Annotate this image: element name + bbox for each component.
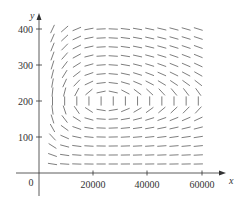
slope-segment xyxy=(134,108,141,112)
slope-segment xyxy=(97,109,105,110)
slope-segment xyxy=(74,107,79,114)
slope-segment xyxy=(109,119,117,120)
x-tick-label-40000: 40000 xyxy=(135,179,160,190)
field-segments xyxy=(48,25,202,164)
slope-segment xyxy=(133,137,141,138)
slope-segment xyxy=(73,127,81,130)
slope-segment xyxy=(51,115,54,123)
slope-segment xyxy=(73,71,80,76)
slope-segment xyxy=(183,81,190,86)
slope-segment xyxy=(158,137,166,138)
slope-segment xyxy=(51,25,55,33)
slope-segment xyxy=(146,28,154,30)
slope-segment xyxy=(195,72,202,76)
slope-segment xyxy=(182,72,189,76)
slope-segment xyxy=(196,89,201,96)
slope-segment xyxy=(159,89,165,95)
slope-segment xyxy=(182,63,190,66)
slope-segment xyxy=(109,82,117,83)
slope-segment xyxy=(60,154,68,155)
y-tick-label-200: 200 xyxy=(18,96,33,107)
slope-segment xyxy=(73,145,81,146)
slope-segment xyxy=(51,70,53,78)
slope-segment xyxy=(73,136,81,138)
slope-segment xyxy=(194,28,202,30)
slope-segment xyxy=(85,37,93,39)
slope-segment xyxy=(51,61,54,69)
slope-segment xyxy=(182,117,190,120)
slope-segment xyxy=(121,46,129,47)
slope-segment xyxy=(73,45,81,49)
slope-segment xyxy=(133,55,141,57)
slope-segment xyxy=(60,164,68,165)
slope-segment xyxy=(73,155,81,156)
slope-segment xyxy=(64,88,66,96)
slope-segment xyxy=(52,79,54,87)
slope-segment xyxy=(61,135,69,138)
x-tick-label-20000: 20000 xyxy=(81,179,106,190)
slope-segment xyxy=(73,63,80,67)
slope-segment xyxy=(51,52,54,60)
slope-segment xyxy=(182,55,190,58)
slope-segment xyxy=(121,128,129,129)
slope-segment xyxy=(85,28,93,30)
slope-segment xyxy=(184,89,189,96)
slope-segment xyxy=(97,83,105,84)
slope-segment xyxy=(146,146,154,147)
slope-segment xyxy=(194,136,202,137)
slope-segment xyxy=(61,26,67,32)
slope-segment xyxy=(52,106,53,114)
slope-segment xyxy=(194,127,202,129)
slope-segment xyxy=(170,63,178,66)
slope-segment xyxy=(61,126,68,131)
y-tick-label-400: 400 xyxy=(18,24,33,35)
slope-segment xyxy=(182,136,190,137)
slope-segment xyxy=(85,73,93,76)
slope-segment xyxy=(170,136,178,137)
slope-segment xyxy=(182,146,190,147)
slope-segment xyxy=(194,54,202,57)
x-axis-label: x xyxy=(228,175,234,186)
slope-segment xyxy=(74,80,80,86)
slope-segment xyxy=(85,55,93,57)
slope-segment xyxy=(121,55,129,56)
slope-segment xyxy=(97,91,105,93)
x-tick-label-60000: 60000 xyxy=(190,179,215,190)
slope-segment xyxy=(194,146,202,147)
slope-segment xyxy=(109,109,117,110)
slope-segment xyxy=(121,118,129,119)
slope-segment xyxy=(170,127,178,129)
slope-segment xyxy=(182,127,190,129)
slope-segment xyxy=(63,79,67,87)
slope-segment xyxy=(85,46,93,48)
slope-segment xyxy=(48,163,56,164)
slope-segment xyxy=(121,82,129,84)
slope-segment xyxy=(97,65,105,66)
slope-segment xyxy=(194,63,202,67)
slope-segment xyxy=(121,37,129,38)
slope-segment xyxy=(171,81,178,86)
slope-segment xyxy=(133,127,141,128)
slope-segment xyxy=(171,107,177,113)
slope-segment xyxy=(133,46,141,48)
slope-segment xyxy=(109,65,117,66)
slope-segment xyxy=(134,73,142,75)
slope-segment xyxy=(62,53,68,59)
slope-segment xyxy=(97,56,105,57)
slope-segment xyxy=(182,37,190,39)
slope-segment xyxy=(97,74,105,75)
slope-segment xyxy=(158,127,166,129)
slope-segment xyxy=(122,108,130,111)
slope-segment xyxy=(109,56,117,57)
slope-segment xyxy=(146,46,154,48)
slope-segment xyxy=(133,28,141,29)
slope-segment xyxy=(194,37,202,40)
y-axis-label: y xyxy=(29,10,35,21)
slope-segment xyxy=(49,154,57,157)
slope-segment xyxy=(75,88,79,95)
slope-segment xyxy=(121,29,129,30)
slope-segment xyxy=(85,118,93,120)
slope-segment xyxy=(158,37,166,39)
slope-segment xyxy=(182,28,190,30)
slope-segment xyxy=(51,34,54,42)
